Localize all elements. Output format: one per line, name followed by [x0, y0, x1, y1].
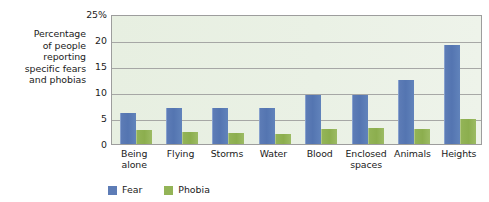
bar-group — [158, 16, 204, 144]
y-axis-title-line: of people — [2, 40, 86, 52]
bar-phobia-blood[interactable] — [321, 129, 337, 144]
x-axis-category-labels: BeingaloneFlyingStormsWaterBloodEnclosed… — [111, 148, 482, 176]
y-axis-title-line: Percentage — [2, 28, 86, 40]
bar-fear-flying[interactable] — [166, 108, 182, 144]
legend-swatch-fear — [108, 186, 117, 195]
bar-group — [344, 16, 390, 144]
legend: Fear Phobia — [108, 183, 210, 197]
x-axis-label-line: Being — [111, 148, 157, 159]
y-axis-tick-label: 5 — [77, 114, 107, 124]
bar-chart-figure: Percentage of people reporting specific … — [0, 0, 489, 202]
legend-item-fear[interactable]: Fear — [108, 185, 142, 195]
bar-phobia-storms[interactable] — [228, 133, 244, 144]
y-axis-title: Percentage of people reporting specific … — [2, 28, 86, 86]
y-axis-tick-label: 15 — [77, 62, 107, 72]
x-axis-label-line: alone — [111, 159, 157, 170]
y-axis-tick-label: 25% — [77, 10, 107, 20]
bar-group — [251, 16, 297, 144]
x-axis-label-line: Animals — [389, 148, 435, 159]
x-axis-category-label: Blood — [297, 148, 343, 159]
bar-fear-water[interactable] — [259, 108, 275, 144]
bar-phobia-enclosed-spaces[interactable] — [368, 128, 384, 144]
bar-group — [112, 16, 158, 144]
x-axis-label-line: Storms — [204, 148, 250, 159]
x-axis-label-line: Flying — [157, 148, 203, 159]
y-axis-title-line: reporting — [2, 51, 86, 63]
bar-phobia-being-alone[interactable] — [136, 130, 152, 144]
x-axis-category-label: Water — [250, 148, 296, 159]
y-axis-title-line: and phobias — [2, 74, 86, 86]
bars-layer — [112, 16, 481, 144]
plot-area — [111, 15, 482, 145]
bar-group — [205, 16, 251, 144]
bar-fear-enclosed-spaces[interactable] — [352, 95, 368, 144]
bar-fear-being-alone[interactable] — [120, 113, 136, 144]
bar-fear-heights[interactable] — [444, 45, 460, 144]
bar-group — [298, 16, 344, 144]
bar-phobia-flying[interactable] — [182, 132, 198, 144]
bar-phobia-heights[interactable] — [460, 119, 476, 144]
y-axis-tick-labels: 0510152025% — [75, 15, 107, 145]
x-axis-category-label: Animals — [389, 148, 435, 159]
bar-group — [390, 16, 436, 144]
legend-swatch-phobia — [164, 186, 173, 195]
x-axis-label-line: spaces — [343, 159, 389, 170]
x-axis-category-label: Enclosedspaces — [343, 148, 389, 171]
x-axis-label-line: Enclosed — [343, 148, 389, 159]
bar-fear-storms[interactable] — [212, 108, 228, 144]
bar-fear-animals[interactable] — [398, 80, 414, 144]
x-axis-category-label: Storms — [204, 148, 250, 159]
y-axis-title-line: specific fears — [2, 63, 86, 75]
legend-label-fear: Fear — [122, 185, 142, 195]
x-axis-category-label: Beingalone — [111, 148, 157, 171]
x-axis-label-line: Blood — [297, 148, 343, 159]
bar-phobia-animals[interactable] — [414, 129, 430, 144]
y-axis-tick-label: 20 — [77, 36, 107, 46]
y-axis-tick-label: 10 — [77, 88, 107, 98]
legend-label-phobia: Phobia — [178, 185, 210, 195]
x-axis-label-line: Heights — [436, 148, 482, 159]
bar-fear-blood[interactable] — [305, 95, 321, 144]
x-axis-category-label: Flying — [157, 148, 203, 159]
legend-item-phobia[interactable]: Phobia — [164, 185, 210, 195]
x-axis-category-label: Heights — [436, 148, 482, 159]
bar-group — [437, 16, 483, 144]
y-axis-tick-label: 0 — [77, 140, 107, 150]
x-axis-label-line: Water — [250, 148, 296, 159]
bar-phobia-water[interactable] — [275, 134, 291, 144]
